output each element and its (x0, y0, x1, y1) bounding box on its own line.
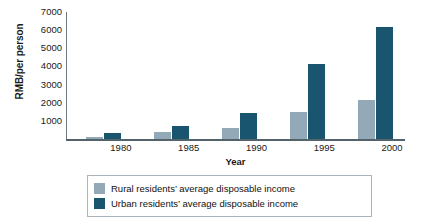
x-tick-label: 1990 (232, 142, 282, 154)
y-tick-label: 5000 (28, 43, 62, 53)
bar-group (154, 12, 189, 139)
legend-label-urban: Urban residents’ average disposable inco… (111, 198, 298, 209)
plot-area (66, 12, 405, 140)
y-tick-label: 6000 (28, 25, 62, 35)
legend-swatch-rural-icon (94, 183, 105, 194)
legend-item-rural: Rural residents’ average disposable inco… (94, 181, 365, 195)
y-tick-label: 1000 (28, 116, 62, 126)
chart-legend: Rural residents’ average disposable inco… (87, 175, 372, 217)
legend-swatch-urban-icon (94, 198, 105, 209)
bar-chart-figure: RMB/per person 1000200030004000500060007… (0, 0, 433, 223)
y-axis-title: RMB/per person (14, 7, 25, 117)
x-tick-label: 1995 (299, 142, 349, 154)
x-axis-line (66, 139, 405, 141)
legend-item-urban: Urban residents’ average disposable inco… (94, 196, 365, 210)
x-axis-tick-labels: 19801985199019952000 (66, 142, 405, 156)
bar-group (290, 12, 325, 139)
bar-rural (358, 100, 375, 139)
x-tick-label: 1985 (164, 142, 214, 154)
bar-rural (290, 112, 307, 139)
y-tick-label: 7000 (28, 7, 62, 17)
bar-rural (222, 128, 239, 139)
bar-group (86, 12, 121, 139)
y-tick-label: 2000 (28, 98, 62, 108)
x-tick-label: 2000 (367, 142, 417, 154)
bar-urban (308, 64, 325, 139)
bars-layer (66, 12, 405, 139)
bar-urban (172, 126, 189, 139)
y-tick-label: 4000 (28, 61, 62, 71)
y-tick-label: 3000 (28, 80, 62, 90)
y-axis-tick-labels: 1000200030004000500060007000 (28, 0, 62, 140)
legend-label-rural: Rural residents’ average disposable inco… (111, 183, 295, 194)
bar-rural (154, 132, 171, 139)
bar-group (222, 12, 257, 139)
x-tick-label: 1980 (96, 142, 146, 154)
bar-urban (376, 27, 393, 139)
x-axis-title: Year (66, 156, 405, 167)
bar-group (358, 12, 393, 139)
bar-urban (240, 113, 257, 139)
